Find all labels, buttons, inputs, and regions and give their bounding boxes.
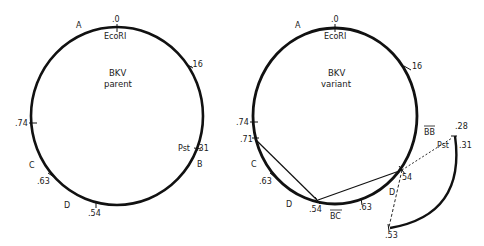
mark-16-label: .16 — [190, 60, 203, 69]
parent-genome-circle — [31, 27, 203, 205]
region-d-label: D — [64, 201, 70, 210]
variant-title-line2: variant — [321, 79, 352, 89]
ecori-label: EcoRI — [104, 32, 126, 41]
parent-map: A .0 EcoRI .16 BKV parent .74 Pst .31 B … — [15, 15, 209, 218]
mark-31-label: .31 — [196, 144, 209, 153]
mark-16-label: 16 — [412, 62, 422, 71]
pst-site-label: Pst — [178, 144, 190, 153]
variant-title-line1: BKV — [328, 68, 345, 78]
region-c-label: C — [251, 160, 257, 169]
mark-28-label: .28 — [455, 122, 468, 131]
mark-63-left-label: .63 — [259, 177, 272, 186]
svg-text:BC: BC — [330, 212, 341, 221]
region-d-left-label: D — [286, 200, 292, 209]
tick-53 — [388, 224, 389, 231]
region-bb-label: BB — [424, 126, 435, 137]
region-a-label: A — [76, 21, 82, 30]
variant-genome-circle — [253, 28, 417, 204]
chord-71-to-54 — [255, 139, 317, 200]
ecori-label: EcoRI — [324, 32, 346, 41]
mark-63-bottom-label: .63 — [359, 203, 372, 212]
mark-54-bottom-label: .54 — [309, 205, 322, 214]
mark-71-label: .71 — [240, 135, 253, 144]
region-bc-label: BC — [330, 210, 342, 221]
mark-74-label: .74 — [236, 118, 249, 127]
mark-74-label: .74 — [15, 119, 28, 128]
region-b-label: B — [197, 160, 203, 169]
region-d-right-label: D — [389, 188, 395, 197]
region-c-label: C — [29, 161, 35, 170]
mark-54-right-label: 54 — [402, 173, 412, 182]
mark-63-label: .63 — [37, 177, 50, 186]
parent-title-line2: parent — [104, 79, 133, 89]
region-a-label: A — [295, 21, 301, 30]
zero-label: .0 — [331, 15, 339, 24]
parent-title-line1: BKV — [109, 68, 126, 78]
variant-map: A .0 EcoRI 16 BKV variant .74 .71 C .63 … — [236, 15, 472, 240]
bkv-restriction-map-diagram: A .0 EcoRI .16 BKV parent .74 Pst .31 B … — [0, 0, 484, 246]
mark-31-label: .31 — [459, 141, 472, 150]
mark-53-label: .53 — [385, 231, 398, 240]
pst-site-label: Pst — [437, 141, 449, 150]
mark-54-label: .54 — [88, 209, 101, 218]
svg-text:BB: BB — [424, 128, 435, 137]
zero-label: .0 — [112, 15, 120, 24]
